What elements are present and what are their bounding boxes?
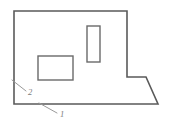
main-body-outline [14,11,158,104]
vertical-cutout [87,26,100,62]
technical-drawing-canvas: 2 1 [0,0,171,120]
callout-1-label: 1 [60,109,64,119]
callout-2-label: 2 [28,87,33,97]
diagram-svg: 2 1 [0,0,171,120]
horizontal-cutout [38,56,73,80]
